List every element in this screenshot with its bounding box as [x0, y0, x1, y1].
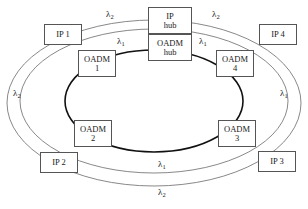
wavelength-label-top-right: λ2	[212, 9, 220, 19]
wavelength-subscript: 1	[121, 40, 124, 47]
wavelength-label-bottom-outer: λ2	[158, 187, 166, 197]
node-ip-4[interactable]: IP 4	[259, 24, 297, 45]
node-oadm-2[interactable]: OADM 2	[74, 120, 112, 147]
wavelength-subscript: 1	[284, 92, 287, 99]
wavelength-label-inner-top-right: λ1	[199, 36, 207, 46]
wavelength-subscript: 2	[216, 13, 219, 20]
wavelength-subscript: 2	[17, 92, 20, 99]
node-oadm-hub-sublabel: hub	[164, 48, 177, 57]
wavelength-subscript: 2	[110, 13, 113, 20]
node-oadm-2-index: 2	[91, 134, 95, 143]
wavelength-label-top-left: λ2	[106, 9, 114, 19]
node-ip-1-label: IP 1	[56, 30, 70, 39]
wavelength-label-left: λ2	[13, 88, 21, 98]
wavelength-label-inner-top-left: λ1	[117, 36, 125, 46]
node-oadm-3-index: 3	[235, 134, 239, 143]
node-oadm-4[interactable]: OADM 4	[216, 50, 254, 77]
wavelength-subscript: 1	[162, 163, 165, 170]
node-ip-hub[interactable]: IP hub	[148, 7, 192, 34]
node-oadm-hub[interactable]: OADM hub	[148, 34, 192, 61]
node-ip-2-label: IP 2	[52, 158, 66, 167]
node-oadm-1[interactable]: OADM 1	[78, 50, 116, 77]
node-oadm-1-index: 1	[95, 64, 99, 73]
node-oadm-4-index: 4	[233, 64, 237, 73]
wavelength-label-bottom-inner: λ1	[158, 159, 166, 169]
node-oadm-3[interactable]: OADM 3	[218, 120, 256, 147]
node-ip-1[interactable]: IP 1	[44, 24, 82, 45]
wavelength-subscript: 1	[203, 40, 206, 47]
wavelength-label-right: λ1	[280, 88, 288, 98]
node-ip-2[interactable]: IP 2	[40, 152, 78, 173]
node-ip-3-label: IP 3	[270, 157, 284, 166]
wavelength-subscript: 2	[162, 191, 165, 198]
network-diagram: IP 1 IP 2 IP 3 IP 4 OADM 1 OADM 2 OADM 3…	[0, 0, 308, 209]
node-ip-4-label: IP 4	[271, 30, 285, 39]
node-ip-3[interactable]: IP 3	[258, 151, 296, 172]
node-ip-hub-sublabel: hub	[164, 21, 177, 30]
